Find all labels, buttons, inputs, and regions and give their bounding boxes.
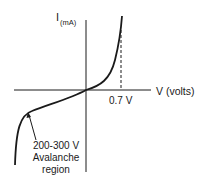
forward-voltage-label: 0.7 V [109,95,133,106]
diode-iv-diagram: I (mA) V (volts) 0.7 V 200-300 V Avalanc… [0,0,209,183]
avalanche-arrow-shaft [29,115,36,140]
x-axis-label: V (volts) [156,85,195,97]
region-label: region [42,164,70,175]
breakdown-voltage-label: 200-300 V [33,140,79,151]
y-axis-unit: (mA) [60,18,77,27]
avalanche-label: Avalanche [33,152,80,163]
y-axis-label: I [56,11,59,23]
